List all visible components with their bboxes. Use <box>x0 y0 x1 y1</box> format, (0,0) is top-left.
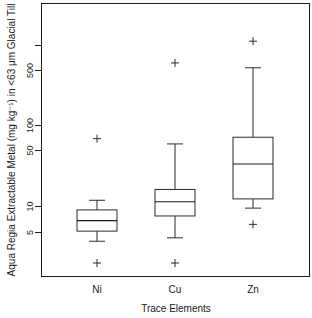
y-tick-label-10: 10 <box>25 201 35 211</box>
boxes-layer <box>77 37 273 267</box>
boxplot-figure: 500 100 50 10 5 Aqua Regia Extractable M… <box>0 0 312 318</box>
box-group-ni <box>77 135 117 267</box>
y-tick-label-5: 5 <box>25 230 35 235</box>
box-group-cu <box>155 59 195 267</box>
y-axis-title: Aqua Regia Extractable Metal (mg kg⁻¹) i… <box>6 4 17 277</box>
x-axis-title: Trace Elements <box>141 303 211 314</box>
y-axis-ticks <box>35 46 42 233</box>
y-axis-tick-labels: 500 100 50 10 5 <box>25 63 35 235</box>
boxplot-svg: 500 100 50 10 5 Aqua Regia Extractable M… <box>0 0 312 318</box>
y-tick-label-500: 500 <box>25 63 35 78</box>
x-tick-label-zn: Zn <box>247 284 259 295</box>
y-tick-label-100: 100 <box>25 118 35 133</box>
box-cu <box>155 189 195 216</box>
box-zn <box>233 137 273 199</box>
y-tick-label-50: 50 <box>25 145 35 155</box>
x-tick-label-ni: Ni <box>92 284 101 295</box>
box-group-zn <box>233 37 273 228</box>
x-axis-tick-labels: Ni Cu Zn <box>92 284 259 295</box>
x-tick-label-cu: Cu <box>169 284 182 295</box>
